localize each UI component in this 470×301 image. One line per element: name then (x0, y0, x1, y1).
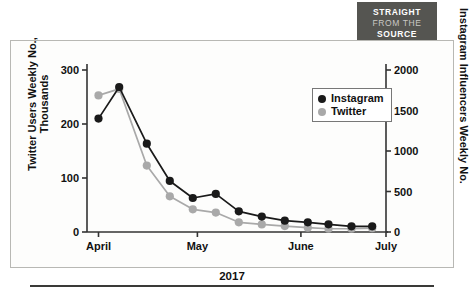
y-axis-right-tick-label: 500 (394, 186, 412, 198)
x-axis-tick-label: June (288, 240, 314, 252)
x-axis-tick-label: April (86, 240, 111, 252)
legend-marker-icon (318, 108, 326, 116)
data-point-marker (212, 190, 220, 198)
data-point-marker (94, 91, 102, 99)
y-axis-right-tick-label: 2000 (394, 64, 418, 76)
legend-item-twitter: Twitter (318, 105, 384, 118)
data-point-marker (94, 115, 102, 123)
data-point-marker (166, 177, 174, 185)
x-axis-tick-label: July (375, 240, 398, 252)
y-axis-right-tick-label: 1500 (394, 105, 418, 117)
data-point-marker (368, 222, 376, 230)
data-point-marker (258, 213, 266, 221)
data-point-marker (212, 208, 220, 216)
data-point-marker (189, 205, 197, 213)
data-point-marker (143, 140, 151, 148)
data-point-marker (324, 220, 332, 228)
y-axis-left-tick-label: 0 (73, 226, 79, 238)
banner-line-3: SOURCE (377, 29, 417, 40)
x-axis-tick-label: May (187, 240, 209, 252)
data-point-marker (347, 222, 355, 230)
y-axis-left-tick-label: 200 (61, 118, 79, 130)
y-axis-right-title: Instagram Influencers Weekly No. (458, 6, 470, 186)
data-point-marker (189, 194, 197, 202)
banner-line-1: STRAIGHT (373, 7, 421, 18)
y-axis-left-tick-label: 300 (61, 64, 79, 76)
x-axis-title: 2017 (0, 270, 464, 282)
legend-label-instagram: Instagram (331, 92, 384, 105)
data-point-marker (281, 217, 289, 225)
data-point-marker (304, 218, 312, 226)
data-point-marker (258, 220, 266, 228)
caption-divider (30, 285, 434, 287)
y-axis-left-title: Twitter Users Weekly No., Thousands (26, 19, 50, 189)
y-axis-right-tick-label: 1000 (394, 145, 418, 157)
chart-legend: Instagram Twitter (312, 88, 392, 122)
data-point-marker (235, 218, 243, 226)
banner-line-2: FROM THE (372, 18, 421, 29)
y-axis-right-tick-label: 0 (394, 226, 400, 238)
line-chart-plot: 01002003000500100015002000AprilMayJuneJu… (10, 40, 454, 268)
legend-marker-icon (318, 95, 326, 103)
data-point-marker (143, 161, 151, 169)
legend-label-twitter: Twitter (331, 105, 366, 118)
data-point-marker (115, 83, 123, 91)
data-point-marker (235, 207, 243, 215)
y-axis-left-tick-label: 100 (61, 172, 79, 184)
data-point-marker (166, 192, 174, 200)
legend-item-instagram: Instagram (318, 92, 384, 105)
